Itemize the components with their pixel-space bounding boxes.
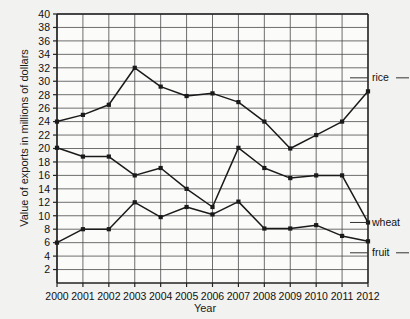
- series-label-rice: rice: [372, 71, 389, 83]
- data-point-rice: [366, 89, 370, 93]
- y-tick-label: 32: [38, 62, 50, 74]
- y-tick-label: 38: [38, 21, 50, 33]
- y-tick-label: 40: [38, 8, 50, 20]
- data-point-rice: [236, 100, 240, 104]
- x-tick-label: 2001: [71, 290, 95, 302]
- data-point-rice: [159, 85, 163, 89]
- x-tick-label: 2005: [175, 290, 199, 302]
- y-tick-label: 10: [38, 210, 50, 222]
- data-point-fruit: [288, 226, 292, 230]
- data-point-fruit: [236, 200, 240, 204]
- series-label-fruit: fruit: [372, 246, 390, 258]
- x-tick-label: 2008: [253, 290, 277, 302]
- y-tick-label: 6: [44, 236, 50, 248]
- data-point-fruit: [159, 215, 163, 219]
- y-tick-label: 2: [44, 263, 50, 275]
- data-point-fruit: [81, 227, 85, 231]
- data-point-fruit: [210, 212, 214, 216]
- y-tick-label: 18: [38, 156, 50, 168]
- y-tick-label: 36: [38, 35, 50, 47]
- data-point-rice: [55, 120, 59, 124]
- x-tick-label: 2011: [331, 290, 354, 302]
- y-tick-label: 26: [38, 102, 50, 114]
- data-point-fruit: [107, 227, 111, 231]
- x-tick-label: 2003: [123, 290, 147, 302]
- data-point-wheat: [81, 154, 85, 158]
- data-point-fruit: [314, 223, 318, 227]
- data-point-wheat: [288, 176, 292, 180]
- data-point-fruit: [184, 205, 188, 209]
- x-tick-label: 2010: [304, 290, 328, 302]
- data-point-wheat: [236, 146, 240, 150]
- data-point-fruit: [262, 226, 266, 230]
- data-point-wheat: [314, 173, 318, 177]
- y-tick-label: 20: [38, 142, 50, 154]
- data-point-rice: [107, 103, 111, 107]
- data-point-wheat: [133, 173, 137, 177]
- x-tick-label: 2002: [97, 290, 121, 302]
- y-tick-label: 14: [38, 183, 50, 195]
- y-tick-label: 4: [44, 250, 50, 262]
- data-point-rice: [340, 120, 344, 124]
- data-point-fruit: [366, 239, 370, 243]
- data-point-rice: [288, 146, 292, 150]
- data-point-wheat: [159, 166, 163, 170]
- x-tick-label: 2006: [201, 290, 225, 302]
- data-point-rice: [210, 91, 214, 95]
- y-tick-label: 34: [38, 48, 50, 60]
- y-tick-label: 24: [38, 115, 50, 127]
- data-point-rice: [314, 133, 318, 137]
- data-point-fruit: [55, 241, 59, 245]
- data-point-wheat: [340, 173, 344, 177]
- x-tick-label: 2004: [149, 290, 173, 302]
- y-tick-label: 12: [38, 196, 50, 208]
- data-point-rice: [184, 94, 188, 98]
- x-tick-label: 2009: [279, 290, 303, 302]
- data-point-rice: [81, 113, 85, 117]
- data-point-wheat: [107, 154, 111, 158]
- y-tick-label: 30: [38, 75, 50, 87]
- y-tick-label: 8: [44, 223, 50, 235]
- data-point-wheat: [262, 166, 266, 170]
- data-point-wheat: [210, 205, 214, 209]
- y-tick-label: 16: [38, 169, 50, 181]
- data-point-rice: [262, 120, 266, 124]
- chart-canvas: 2468101214161820222426283032343638402000…: [0, 0, 410, 319]
- data-point-rice: [133, 66, 137, 70]
- data-point-fruit: [133, 200, 137, 204]
- y-tick-label: 28: [38, 89, 50, 101]
- x-tick-label: 2007: [227, 290, 251, 302]
- data-point-fruit: [340, 234, 344, 238]
- data-point-wheat: [55, 146, 59, 150]
- line-chart: Value of exports in millions of dollars …: [0, 0, 410, 319]
- data-point-wheat: [184, 187, 188, 191]
- series-label-wheat: wheat: [371, 216, 400, 228]
- x-tick-label: 2000: [45, 290, 69, 302]
- x-tick-label: 2012: [356, 290, 380, 302]
- y-tick-label: 22: [38, 129, 50, 141]
